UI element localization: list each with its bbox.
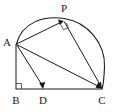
vertex-label-C: C bbox=[98, 94, 105, 106]
vertex-label-A: A bbox=[3, 36, 11, 48]
vertex-label-D: D bbox=[39, 94, 47, 106]
segment-AC bbox=[17, 45, 98, 87]
arrowhead-AP bbox=[58, 20, 64, 26]
vertex-label-P: P bbox=[61, 2, 67, 14]
arc-semicircle-AC bbox=[17, 18, 105, 89]
right-angle-marker-B bbox=[16, 84, 22, 90]
segment-AP bbox=[17, 23, 60, 44]
arrowhead-AD bbox=[39, 82, 45, 89]
vertex-label-B: B bbox=[12, 94, 19, 106]
segment-PC bbox=[64, 22, 99, 84]
geometry-canvas: A B D C P bbox=[0, 0, 115, 112]
geometry-figure: A B D C P bbox=[0, 0, 115, 112]
